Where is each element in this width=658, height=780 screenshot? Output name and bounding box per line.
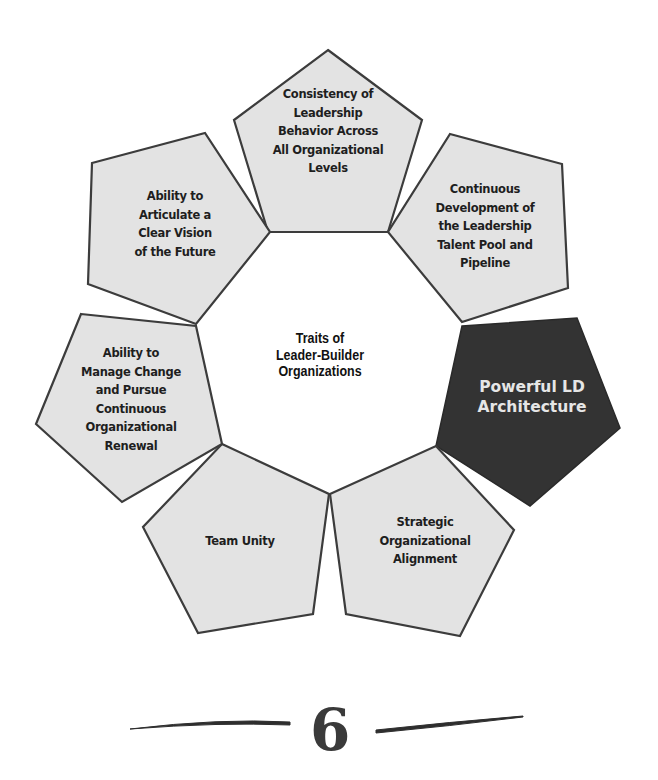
trait-label-top-left: Ability to Articulate a Clear Vision of … [100, 187, 250, 261]
page-footer: 6 [0, 690, 658, 770]
trait-label-left: Ability to Manage Change and Pursue Cont… [56, 344, 206, 455]
leader-builder-diagram: Traits of Leader-Builder Organizations C… [0, 0, 658, 780]
center-title: Traits of Leader-Builder Organizations [258, 330, 382, 380]
trait-label-top-right: Continuous Development of the Leadership… [410, 180, 560, 273]
trait-label-top: Consistency of Leadership Behavior Acros… [248, 85, 408, 178]
trait-label-right-highlighted: Powerful LD Architecture [452, 377, 612, 417]
page-number: 6 [310, 690, 350, 770]
trait-label-bottom-right: Strategic Organizational Alignment [350, 513, 500, 569]
trait-label-bottom-left: Team Unity [170, 532, 310, 551]
